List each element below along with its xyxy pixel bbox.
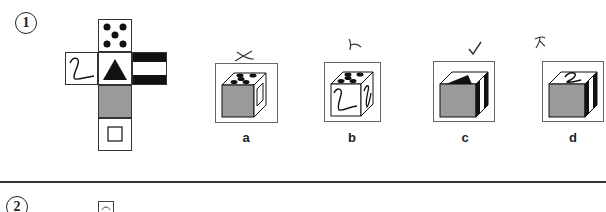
- net-face-square: [98, 118, 132, 151]
- cross-mark-icon: [232, 47, 256, 63]
- question2-net-face: [98, 201, 114, 212]
- option-d-box: [542, 61, 604, 122]
- option-c-box: [433, 61, 495, 122]
- triangle-icon: [99, 53, 131, 84]
- option-c-label: c: [455, 130, 475, 145]
- hollow-square-icon: [99, 119, 131, 150]
- partial-shape-icon: [99, 202, 113, 212]
- question-number-1: 1: [15, 12, 37, 34]
- check-mark-icon: [467, 40, 483, 56]
- net-face-dots: [98, 19, 132, 52]
- option-a-box: [215, 63, 278, 123]
- option-d-label: d: [563, 130, 583, 145]
- net-face-stripes: [132, 52, 167, 85]
- cube-c-icon: [434, 62, 494, 121]
- net-face-gray: [98, 85, 132, 118]
- option-b-label: b: [342, 130, 362, 145]
- cross-mark-icon: [531, 33, 549, 51]
- five-dots-icon: [99, 20, 131, 51]
- net-face-z-curve: [65, 52, 98, 85]
- cube-b-icon: [325, 63, 380, 121]
- section-divider: [0, 181, 606, 183]
- cube-a-icon: [216, 64, 277, 122]
- z-curve-icon: [66, 53, 97, 84]
- stripes-icon: [133, 53, 166, 84]
- cube-d-icon: [543, 62, 603, 121]
- cross-mark-icon: [345, 36, 365, 54]
- net-face-triangle: [98, 52, 132, 85]
- option-b-box: [324, 62, 381, 122]
- option-a-label: a: [236, 130, 256, 145]
- question-number-2: 2: [6, 196, 28, 212]
